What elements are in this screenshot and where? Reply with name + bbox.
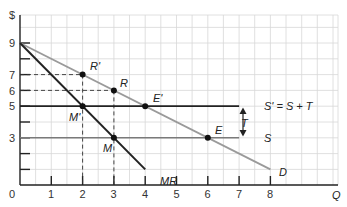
r-label: R	[120, 77, 128, 89]
tax-label: T	[241, 117, 249, 129]
x-tick-7: 7	[236, 188, 242, 200]
y-tick-7: 7	[9, 69, 15, 81]
y-tick-5: 5	[9, 100, 15, 112]
supply-tax-label: S' = S + T	[264, 100, 314, 112]
x-tick-4: 4	[142, 188, 148, 200]
point-r-prime	[80, 72, 86, 78]
supply-label: S	[264, 132, 272, 144]
m-prime-label: M'	[69, 111, 81, 123]
x-tick-3: 3	[111, 188, 117, 200]
e-label: E	[215, 124, 223, 136]
x-tick-2: 2	[80, 188, 86, 200]
y-tick-3: 3	[9, 132, 15, 144]
point-e-prime	[142, 103, 148, 109]
point-e	[205, 135, 211, 141]
x-tick-8: 8	[267, 188, 273, 200]
y-tick-9: 9	[9, 37, 15, 49]
point-m	[111, 135, 117, 141]
mr-label: MR	[160, 175, 177, 187]
x-tick-5: 5	[174, 188, 180, 200]
supply-demand-chart: $ 9 7 6 5 3 0 1 2 3 4 5 6 7 8 Q D MR S S…	[0, 0, 347, 207]
e-prime-label: E'	[153, 92, 163, 104]
m-label: M	[103, 142, 113, 154]
x-axis-label: Q	[332, 189, 341, 201]
r-prime-label: R'	[90, 60, 101, 72]
point-r	[111, 87, 117, 93]
demand-label: D	[279, 166, 287, 178]
y-tick-6: 6	[9, 85, 15, 97]
origin-label: 0	[9, 188, 15, 200]
x-tick-1: 1	[48, 188, 54, 200]
x-tick-6: 6	[205, 188, 211, 200]
point-m-prime	[80, 103, 86, 109]
y-axis-label: $	[9, 9, 15, 21]
